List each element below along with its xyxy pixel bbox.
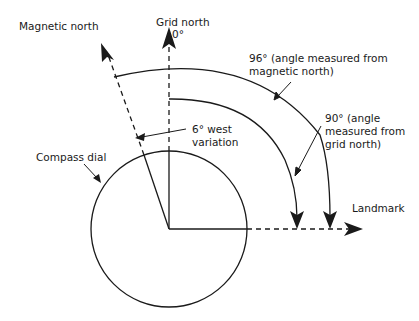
label-90-line2: measured from xyxy=(325,125,405,137)
label-magnetic-north: Magnetic north xyxy=(19,20,99,32)
label-96-line1: 96° (angle measured from xyxy=(249,52,388,64)
pointer-96-label xyxy=(278,82,291,96)
magnetic-north-line-solid xyxy=(144,155,169,229)
compass-variation-diagram: Magnetic north Grid north 0° 96° (angle … xyxy=(0,0,419,321)
label-90-line1: 90° (angle xyxy=(325,112,380,124)
pointer-90-arrowhead-icon xyxy=(295,167,301,176)
arc-90-degrees xyxy=(169,99,297,218)
magnetic-north-arrowhead-icon xyxy=(101,43,114,62)
pointer-compass-dial-label xyxy=(84,164,97,178)
label-variation-line2: variation xyxy=(192,136,238,148)
label-90-line3: grid north) xyxy=(325,138,381,150)
label-variation-line1: 6° west xyxy=(192,123,232,135)
label-96-line2: magnetic north) xyxy=(249,65,334,77)
label-grid-north: Grid north xyxy=(156,16,210,28)
label-zero-degrees: 0° xyxy=(172,28,184,40)
label-compass-dial: Compass dial xyxy=(36,151,106,163)
pointer-90-label xyxy=(298,126,321,170)
label-landmark: Landmark xyxy=(352,202,406,214)
magnetic-north-line-dashed xyxy=(107,52,144,155)
pointer-variation-label xyxy=(142,129,186,137)
